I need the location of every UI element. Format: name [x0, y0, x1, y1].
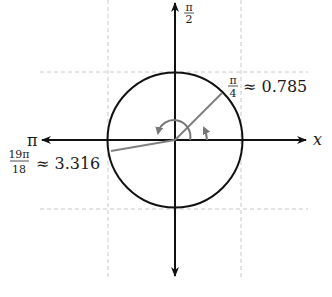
svg-text:19π: 19π [8, 148, 29, 161]
label-pi-over-2: π 2 [184, 1, 194, 26]
label-pi-over-4: π 4 ≈ 0.785 [228, 74, 307, 100]
ray-pi-over-4 [175, 93, 222, 140]
svg-text:2: 2 [186, 13, 193, 26]
label-19pi-over-18: 19π 18 ≈ 3.316 [8, 148, 100, 176]
unit-circle-diagram: π 2 x π π 4 ≈ 0.785 19π 18 ≈ 3.316 [0, 0, 332, 297]
arc-pi-over-4-icon [204, 128, 207, 140]
svg-text:4: 4 [230, 87, 237, 100]
x-axis-label: x [313, 130, 322, 149]
svg-text:≈ 0.785: ≈ 0.785 [243, 77, 307, 96]
svg-text:18: 18 [12, 163, 26, 176]
ray-19pi-over-18 [111, 140, 175, 151]
svg-text:≈ 3.316: ≈ 3.316 [36, 154, 100, 173]
svg-text:π: π [229, 74, 236, 87]
